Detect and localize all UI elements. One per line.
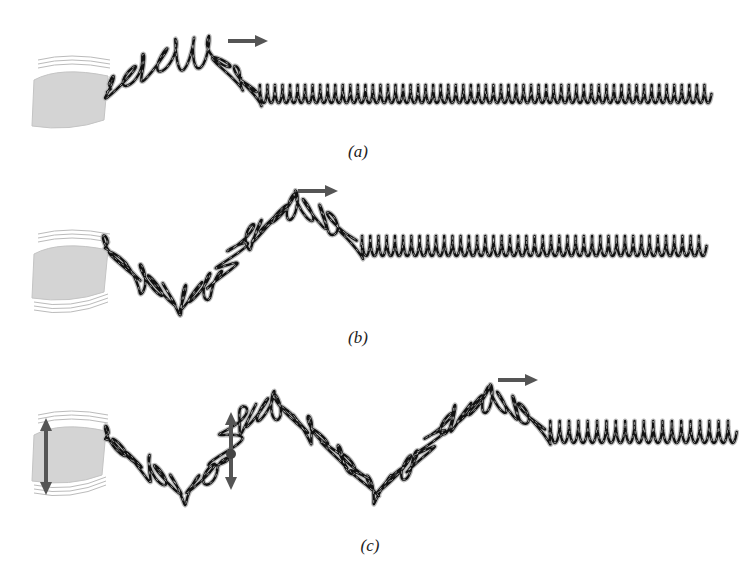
spring-wave-diagram (0, 0, 739, 568)
panel-c-label: (c) (361, 536, 380, 556)
panel-b (32, 185, 707, 315)
panel-b-label: (b) (348, 328, 368, 348)
hand-icon (32, 56, 110, 128)
spring-c (105, 385, 737, 506)
propagation-arrow-icon (298, 185, 338, 197)
panel-a-label: (a) (348, 142, 368, 162)
propagation-arrow-icon (498, 374, 538, 386)
spring-b (103, 191, 707, 316)
panel-c (32, 374, 737, 505)
hand-icon (32, 230, 110, 313)
panel-a (32, 35, 711, 128)
spring-a (105, 36, 711, 106)
propagation-arrow-icon (228, 35, 268, 47)
